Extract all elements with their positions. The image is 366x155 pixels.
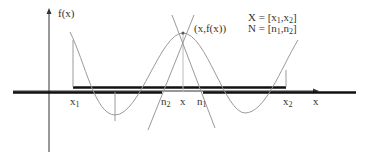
tick-label-x2: x2 — [283, 96, 293, 109]
tick-label-n1: n1 — [197, 96, 207, 109]
interval-newton-diagram: f(x) (x,f(x)) X = [x1,x2] N = [n1,n2] x1… — [0, 0, 366, 155]
legend-line-n: N = [n1,n2] — [248, 23, 297, 36]
tick-label-x1: x1 — [70, 96, 80, 109]
y-axis-label: f(x) — [58, 8, 75, 19]
diagram-canvas — [0, 0, 366, 155]
tick-label-x: x — [180, 96, 186, 107]
y-axis-arrow-icon — [47, 8, 52, 14]
tick-label-n2: n2 — [161, 96, 171, 109]
point-marker — [182, 32, 185, 35]
x-axis-label: x — [313, 96, 319, 107]
tangent-line-1 — [148, 15, 194, 130]
point-label: (x,f(x)) — [194, 23, 226, 34]
